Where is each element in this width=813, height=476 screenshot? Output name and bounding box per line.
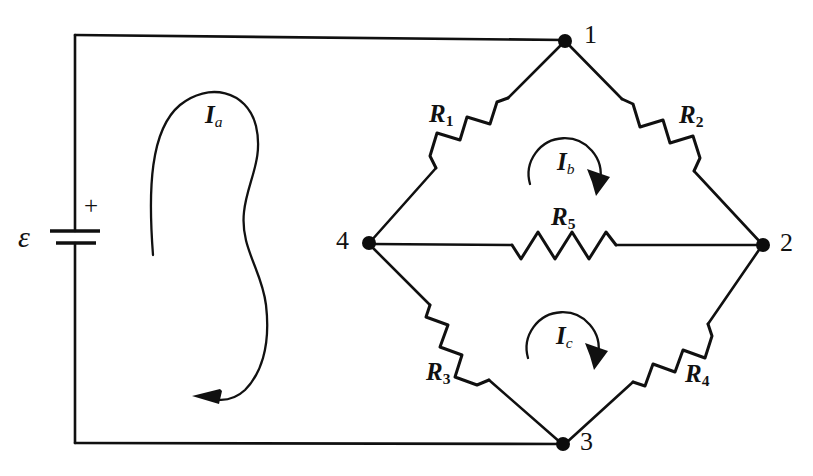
wire-R1-to-node4 (371, 168, 436, 241)
wire-R3-to-node3 (489, 380, 561, 443)
resistor-label-R4-subscript: 4 (702, 372, 710, 389)
node-label-1: 1 (584, 20, 597, 50)
current-label-Ia: Ia (205, 101, 222, 131)
node-label-3: 3 (580, 427, 593, 457)
wire-R2-to-node2 (694, 171, 761, 243)
current-loop-Ia-curve (151, 92, 267, 400)
resistor-label-R5-letter: R (551, 203, 568, 230)
resistor-label-R2-subscript: 2 (696, 113, 704, 130)
current-label-Ic: Ic (556, 322, 573, 352)
resistor-label-R3-letter: R (426, 358, 443, 385)
wire-top-left-to-node1 (75, 35, 565, 40)
resistor-label-R4-letter: R (685, 360, 702, 387)
circuit-diagram-canvas: ε + 1 2 3 4 R1 R2 R3 R4 R5 Ia Ib Ic (0, 0, 813, 476)
resistor-R5-zigzag (512, 232, 616, 259)
node-label-2: 2 (780, 228, 793, 258)
resistor-label-R5: R5 (551, 203, 575, 233)
current-label-Ib-subscript: b (567, 160, 575, 177)
wire-node1-to-R2 (567, 43, 622, 99)
resistor-label-R1-letter: R (429, 100, 446, 127)
current-loop-Ia-arrowhead (192, 389, 222, 404)
resistor-label-R1: R1 (429, 100, 453, 130)
resistor-label-R2: R2 (679, 101, 703, 131)
resistor-label-R2-letter: R (679, 101, 696, 128)
resistor-label-R3: R3 (426, 358, 450, 388)
current-label-Ia-subscript: a (215, 113, 223, 130)
wire-node3-to-R4 (566, 382, 633, 443)
current-label-Ic-letter: I (556, 322, 566, 349)
resistor-label-R4: R4 (685, 360, 709, 390)
current-label-Ia-letter: I (205, 101, 215, 128)
node-dot-4 (362, 236, 376, 250)
current-label-Ib: Ib (557, 148, 574, 178)
node-label-4: 4 (336, 226, 349, 256)
current-loop-Ic-arrowhead (585, 343, 608, 370)
emf-source-label: ε (18, 220, 30, 254)
wire-node4-to-R5 (371, 244, 512, 245)
current-label-Ib-letter: I (557, 148, 567, 175)
wire-node4-to-R3 (371, 246, 430, 305)
resistor-label-R5-subscript: 5 (568, 215, 576, 232)
node-dot-2 (756, 238, 770, 252)
wire-bottom-left-to-node3 (75, 443, 563, 444)
resistor-label-R1-subscript: 1 (446, 112, 454, 129)
battery-positive-terminal-label: + (84, 192, 98, 220)
circuit-svg (0, 0, 813, 476)
resistor-label-R3-subscript: 3 (443, 370, 451, 387)
wire-R4-to-node2 (708, 247, 761, 324)
node-dot-1 (558, 34, 572, 48)
node-dot-3 (556, 437, 570, 451)
wire-node1-to-R1 (508, 43, 563, 98)
current-loop-Ib-arrowhead (587, 169, 610, 196)
current-label-Ic-subscript: c (566, 334, 573, 351)
